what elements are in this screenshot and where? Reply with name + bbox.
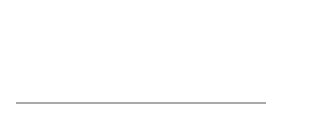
spring-diagram	[0, 0, 314, 129]
